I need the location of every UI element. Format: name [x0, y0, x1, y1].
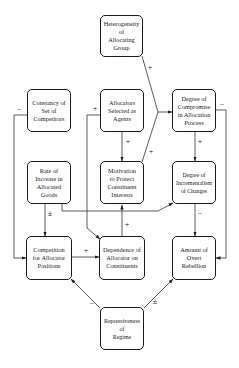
sign-heterogeneity-compromise: +: [148, 64, 153, 72]
node-competition: Competition for Allocator Positions: [26, 236, 72, 280]
node-rate: Rate of Increase in Allocated Goods: [27, 161, 71, 204]
sign-constancy-competition: −: [17, 106, 22, 114]
node-incrementalism: Degree of Incrementalism of Changes: [172, 161, 216, 204]
node-constancy: Constancy of Set of Competitors: [27, 89, 71, 132]
sign-repressiveness-competition: −: [90, 300, 95, 308]
node-repressiveness: Repressiveness of Regime: [100, 307, 144, 350]
edge-compromise-rebellion: [216, 110, 226, 258]
sign-incrementalism-rebellion: −: [198, 210, 203, 218]
edge-constancy-competition: [14, 115, 27, 258]
node-compromise: Degree of Compromise in Allocation Proce…: [172, 89, 216, 132]
sign-motivation-compromise: +: [149, 148, 154, 156]
edge-allocators-dependence: [87, 115, 100, 239]
node-motivation: Motivation to Protect Constituent Intere…: [100, 161, 144, 204]
edge-repressiveness-rebellion: [144, 279, 173, 308]
sign-allocators-motivation: +: [126, 138, 131, 146]
edge-rate-incrementalism: [62, 203, 173, 211]
sign-competition-dependence: +: [84, 247, 89, 255]
sign-compromise-rebellion: −: [220, 101, 225, 109]
sign-allocators-dependence: +: [93, 105, 98, 113]
sign-dependence-motivation: +: [125, 221, 130, 229]
node-dependence: Dependence of Allocator on Constituents: [99, 236, 145, 280]
node-allocators: Allocators Selected as Agents: [100, 89, 144, 132]
sign-compromise-incrementalism: +: [198, 138, 203, 146]
node-heterogeneity: Heterogeneity of Allocating Group: [100, 15, 143, 57]
sign-rate-competition: ±: [48, 210, 52, 218]
node-rebellion: Amount of Overt Rebellion: [172, 236, 216, 280]
sign-repressiveness-rebellion: ±: [153, 298, 157, 306]
edge-repressiveness-competition: [71, 279, 100, 308]
